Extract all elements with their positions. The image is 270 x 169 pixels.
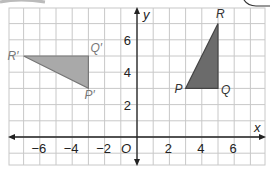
decoration — [0, 0, 270, 6]
top-left-tab-shadow — [0, 0, 45, 2]
vertex-label: Q′ — [90, 41, 102, 55]
vertex-label: R′ — [8, 49, 20, 63]
labels: −6−4−2246246OyxPQRP′Q′R′ — [8, 7, 261, 156]
x-tick-label: 6 — [230, 141, 237, 156]
y-axis-label: y — [142, 7, 151, 22]
vertex-label: R — [216, 7, 225, 21]
x-tick-label: −4 — [64, 141, 79, 156]
x-tick-label: 2 — [165, 141, 172, 156]
vertex-label: P — [175, 82, 183, 96]
vertex-label: P′ — [84, 88, 95, 102]
vertex-label: Q — [221, 83, 230, 97]
coordinate-grid-figure: −6−4−2246246OyxPQRP′Q′R′ — [0, 0, 270, 169]
x-axis-label: x — [253, 120, 261, 135]
x-tick-label: 4 — [197, 141, 204, 156]
x-tick-label: −6 — [31, 141, 46, 156]
x-tick-label: −2 — [96, 141, 111, 156]
y-tick-label: 4 — [124, 65, 131, 80]
origin-label: O — [121, 141, 131, 156]
y-tick-label: 6 — [124, 33, 131, 48]
y-tick-label: 2 — [124, 98, 131, 113]
top-right-tab-edge — [244, 0, 270, 6]
